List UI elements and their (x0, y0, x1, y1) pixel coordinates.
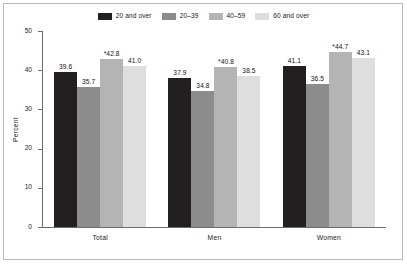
legend-item-20-and-over: 20 and over (98, 12, 152, 20)
y-tick-label-30: 30 (25, 105, 32, 112)
legend-swatch-20-39 (162, 13, 176, 20)
y-tick-30: 30 (38, 109, 42, 110)
bar-total-60-and-over[interactable]: 41.0 (123, 31, 146, 227)
bar-group-total-bars: 39.6 35.7 *42.8 41.0 (43, 31, 157, 227)
legend-swatch-40-59 (209, 13, 223, 20)
bar-women-60-and-over[interactable]: 43.1 (352, 31, 375, 227)
legend-item-20-39: 20–39 (162, 12, 199, 20)
chart-legend: 20 and over 20–39 40–59 60 and over (0, 10, 407, 22)
bar-men-40-59[interactable]: *40.8 (214, 31, 237, 227)
x-tick-label-women: Women (272, 234, 386, 241)
bar-groups: 39.6 35.7 *42.8 41.0 (43, 31, 386, 228)
bar-rect-men-40-59 (214, 67, 237, 227)
bar-men-20-and-over[interactable]: 37.9 (168, 31, 191, 227)
bar-women-40-59[interactable]: *44.7 (329, 31, 352, 227)
bar-men-60-and-over[interactable]: 38.5 (237, 31, 260, 227)
y-tick-label-50: 50 (25, 27, 32, 34)
y-tick-50: 50 (38, 31, 42, 32)
plot-area: 50 40 30 20 10 0 39.6 (42, 31, 386, 228)
bar-value-total-40-59: *42.8 (104, 50, 120, 57)
bar-value-women-20-and-over: 41.1 (288, 57, 301, 64)
bar-group-men: 37.9 34.8 *40.8 38.5 (157, 31, 271, 228)
bar-rect-women-60-and-over (352, 58, 375, 227)
bar-value-women-20-39: 36.5 (311, 75, 324, 82)
bar-value-total-20-39: 35.7 (82, 78, 95, 85)
y-tick-label-0: 0 (28, 223, 32, 230)
bar-value-men-60-and-over: 38.5 (242, 67, 255, 74)
legend-swatch-20-and-over (98, 13, 112, 20)
bar-rect-men-20-39 (191, 91, 214, 227)
bar-rect-women-20-39 (306, 84, 329, 227)
bar-group-women: 41.1 36.5 *44.7 43.1 (272, 31, 386, 228)
bar-group-men-bars: 37.9 34.8 *40.8 38.5 (157, 31, 271, 227)
bar-group-total: 39.6 35.7 *42.8 41.0 (43, 31, 157, 228)
y-tick-10: 10 (38, 188, 42, 189)
bar-value-men-40-59: *40.8 (218, 58, 234, 65)
y-tick-40: 40 (38, 70, 42, 71)
bar-rect-total-40-59 (100, 59, 123, 227)
bar-total-20-39[interactable]: 35.7 (77, 31, 100, 227)
legend-label-60-and-over: 60 and over (273, 12, 309, 20)
bar-total-40-59[interactable]: *42.8 (100, 31, 123, 227)
legend-item-60-and-over: 60 and over (255, 12, 309, 20)
bar-value-total-20-and-over: 39.6 (59, 63, 72, 70)
y-tick-label-10: 10 (25, 183, 32, 190)
bar-rect-men-60-and-over (237, 76, 260, 227)
legend-label-20-39: 20–39 (180, 12, 199, 20)
chart-figure: 20 and over 20–39 40–59 60 and over Perc… (0, 0, 407, 264)
bar-women-20-39[interactable]: 36.5 (306, 31, 329, 227)
y-tick-label-40: 40 (25, 66, 32, 73)
y-tick-label-20: 20 (25, 144, 32, 151)
bar-men-20-39[interactable]: 34.8 (191, 31, 214, 227)
bar-rect-total-20-and-over (54, 72, 77, 227)
bar-value-total-60-and-over: 41.0 (128, 57, 141, 64)
bar-group-women-bars: 41.1 36.5 *44.7 43.1 (272, 31, 386, 227)
bar-rect-total-20-39 (77, 87, 100, 227)
y-axis-title-text: Percent (10, 31, 20, 228)
y-axis-title: Percent (10, 0, 20, 31)
legend-label-20-and-over: 20 and over (116, 12, 152, 20)
bar-rect-women-20-and-over (283, 66, 306, 227)
legend-item-40-59: 40–59 (209, 12, 246, 20)
bar-value-women-40-59: *44.7 (332, 43, 348, 50)
bar-rect-men-20-and-over (168, 78, 191, 227)
x-tick-label-men: Men (157, 234, 271, 241)
bar-value-men-20-39: 34.8 (196, 82, 209, 89)
bar-women-20-and-over[interactable]: 41.1 (283, 31, 306, 227)
x-tick-label-total: Total (43, 234, 157, 241)
bar-rect-total-60-and-over (123, 66, 146, 227)
legend-label-40-59: 40–59 (227, 12, 246, 20)
y-tick-20: 20 (38, 149, 42, 150)
y-tick-0: 0 (38, 227, 42, 228)
legend-swatch-60-and-over (255, 13, 269, 20)
bar-value-women-60-and-over: 43.1 (357, 49, 370, 56)
bar-total-20-and-over[interactable]: 39.6 (54, 31, 77, 227)
bar-rect-women-40-59 (329, 52, 352, 227)
bar-value-men-20-and-over: 37.9 (173, 69, 186, 76)
